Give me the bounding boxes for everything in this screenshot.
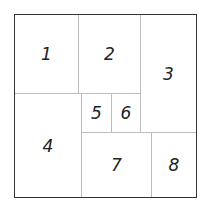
outer-square-border: [14, 14, 197, 198]
